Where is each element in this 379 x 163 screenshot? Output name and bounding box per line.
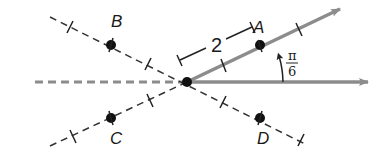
svg-text:A: A <box>252 18 264 37</box>
angle-label: π 6 <box>286 48 298 79</box>
svg-text:D: D <box>257 129 269 148</box>
svg-text:π: π <box>288 48 297 63</box>
polar-diagram: 2 π 6 A B C D <box>0 0 379 163</box>
point-b: B <box>106 12 122 52</box>
point-d: D <box>255 111 269 148</box>
svg-text:6: 6 <box>288 64 296 79</box>
angle-arc <box>279 56 283 82</box>
pole-point <box>182 77 192 87</box>
point-c: C <box>106 111 123 148</box>
svg-text:C: C <box>110 129 123 148</box>
svg-text:B: B <box>111 12 122 31</box>
dimension-label: 2 <box>211 34 222 56</box>
point-a: A <box>252 18 265 52</box>
